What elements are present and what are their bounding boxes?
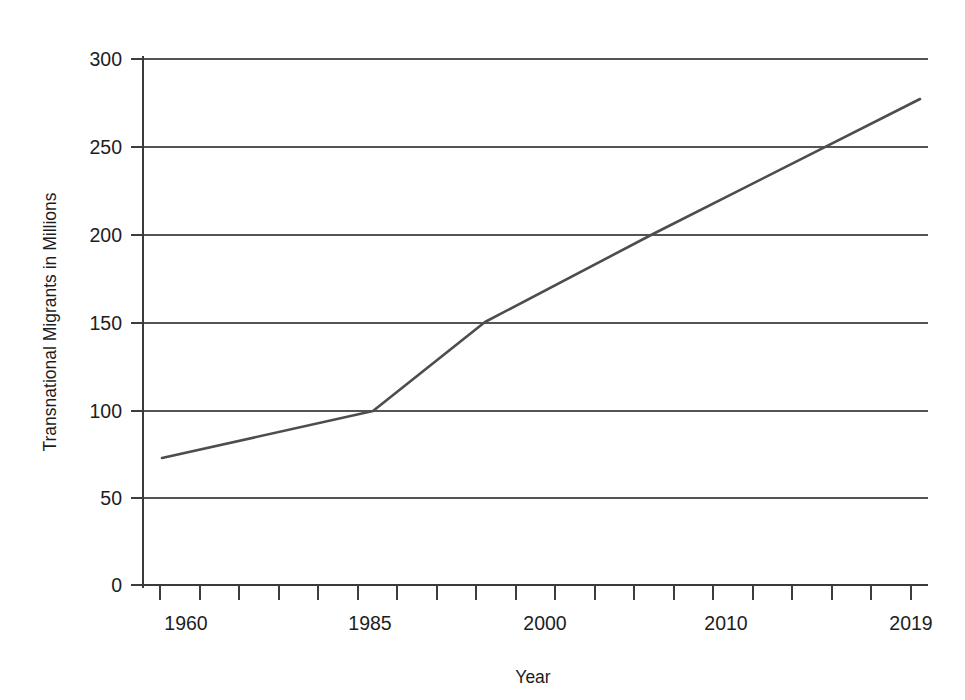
chart-canvas: 300 250 200 150 100 50 0 1960 1985 2000 … <box>0 0 965 700</box>
y-axis-label-100: 100 <box>89 400 122 422</box>
y-axis-label-0: 0 <box>111 574 122 596</box>
y-axis-label-250: 250 <box>89 136 122 158</box>
y-axis-label-150: 150 <box>89 312 122 334</box>
gridlines-horizontal <box>143 59 928 498</box>
x-axis-ticks <box>160 585 911 600</box>
x-axis-label-1985: 1985 <box>348 612 392 634</box>
x-axis-label-1960: 1960 <box>164 612 208 634</box>
y-axis-ticks <box>131 59 143 585</box>
x-axis-label-2000: 2000 <box>523 612 567 634</box>
x-axis-title: Year <box>515 667 551 687</box>
x-tick-labels: 1960 1985 2000 2010 2019 <box>164 612 932 634</box>
y-axis-label-200: 200 <box>89 224 122 246</box>
y-tick-labels: 300 250 200 150 100 50 0 <box>89 48 122 596</box>
x-axis-label-2010: 2010 <box>704 612 748 634</box>
x-axis-label-2019: 2019 <box>889 612 932 634</box>
y-axis-label-50: 50 <box>100 487 122 509</box>
data-series-transnational-migrants <box>162 99 920 458</box>
line-chart-figure: 300 250 200 150 100 50 0 1960 1985 2000 … <box>0 0 965 700</box>
y-axis-title: Transnational Migrants in Millions <box>40 192 60 451</box>
y-axis-label-300: 300 <box>89 48 122 70</box>
